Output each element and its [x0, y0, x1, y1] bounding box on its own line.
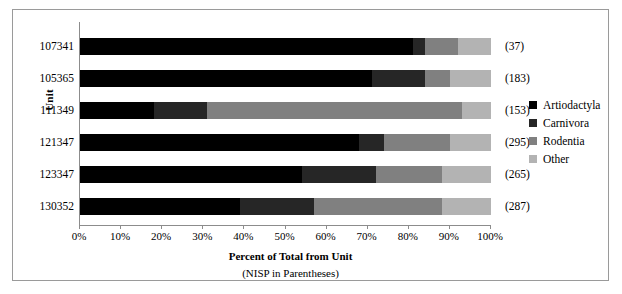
bar-segment-artiodactyla [80, 70, 372, 87]
x-axis-tick-label: 70% [357, 230, 377, 242]
bar-segment-other [442, 166, 491, 183]
legend-swatch-icon [529, 119, 537, 127]
bar-segment-rodentia [384, 134, 450, 151]
y-axis-category-label: 111349 [40, 102, 74, 119]
bar-segment-artiodactyla [80, 102, 154, 119]
bar-segment-carnivora [240, 198, 314, 215]
x-axis-tick-label: 30% [192, 230, 212, 242]
legend-item-carnivora: Carnivora [529, 114, 600, 132]
bar-segment-rodentia [376, 166, 442, 183]
bar-row: 107341(37) [80, 38, 491, 55]
plot-area: 107341(37)105365(183)111349(153)121347(2… [79, 22, 502, 225]
x-axis-tick-label: 50% [274, 230, 294, 242]
x-axis-subtitle: (NISP in Parentheses) [79, 267, 502, 279]
chart-legend: ArtiodactylaCarnivoraRodentiaOther [529, 96, 600, 168]
x-axis-tick-0pct [79, 225, 80, 229]
nisp-annotation-label: (295) [505, 134, 530, 151]
chart-frame: Unit 107341(37)105365(183)111349(153)121… [12, 9, 609, 281]
bar-segment-carnivora [372, 70, 425, 87]
bar-row: 123347(265) [80, 166, 491, 183]
x-axis-tick-80pct [408, 225, 409, 229]
legend-label: Artiodactyla [543, 99, 600, 111]
bar-segment-rodentia [314, 198, 441, 215]
nisp-annotation-label: (153) [505, 102, 530, 119]
bar-segment-other [462, 102, 491, 119]
legend-swatch-icon [529, 155, 537, 163]
x-axis-tick-10pct [120, 225, 121, 229]
x-axis-tick-label: 60% [316, 230, 336, 242]
bar-segment-artiodactyla [80, 38, 413, 55]
y-axis-category-label: 105365 [40, 70, 75, 87]
legend-item-artiodactyla: Artiodactyla [529, 96, 600, 114]
bar-segment-carnivora [154, 102, 207, 119]
legend-label: Rodentia [543, 135, 585, 147]
bar-row: 105365(183) [80, 70, 491, 87]
legend-label: Carnivora [543, 117, 589, 129]
legend-item-other: Other [529, 150, 600, 168]
x-axis-tick-60pct [326, 225, 327, 229]
x-axis-tick-label: 100% [477, 230, 503, 242]
x-axis-tick-label: 0% [72, 230, 87, 242]
x-axis-tick-90pct [449, 225, 450, 229]
bar-row: 111349(153) [80, 102, 491, 119]
x-axis-tick-50pct [285, 225, 286, 229]
x-axis-tick-70pct [367, 225, 368, 229]
nisp-annotation-label: (265) [505, 166, 530, 183]
bar-segment-artiodactyla [80, 166, 302, 183]
nisp-annotation-label: (37) [505, 38, 524, 55]
y-axis-category-label: 107341 [40, 38, 75, 55]
bar-segment-rodentia [207, 102, 462, 119]
x-axis-tick-label: 90% [439, 230, 459, 242]
y-axis-category-label: 123347 [40, 166, 75, 183]
bar-segment-carnivora [359, 134, 384, 151]
bar-segment-other [458, 38, 491, 55]
x-axis-tick-label: 80% [398, 230, 418, 242]
x-axis-tick-20pct [161, 225, 162, 229]
x-axis-tick-label: 20% [151, 230, 171, 242]
legend-item-rodentia: Rodentia [529, 132, 600, 150]
x-axis-title: Percent of Total from Unit [79, 250, 502, 262]
legend-swatch-icon [529, 101, 537, 109]
bar-segment-artiodactyla [80, 134, 359, 151]
nisp-annotation-label: (183) [505, 70, 530, 87]
bar-segment-other [450, 134, 491, 151]
x-axis-tick-label: 40% [233, 230, 253, 242]
bar-segment-carnivora [413, 38, 425, 55]
bar-segment-other [450, 70, 491, 87]
x-axis-tick-label: 10% [110, 230, 130, 242]
bar-row: 121347(295) [80, 134, 491, 151]
y-axis-category-label: 130352 [40, 198, 75, 215]
nisp-annotation-label: (287) [505, 198, 530, 215]
bar-segment-carnivora [302, 166, 376, 183]
y-axis-category-label: 121347 [40, 134, 75, 151]
bar-row: 130352(287) [80, 198, 491, 215]
bar-segment-artiodactyla [80, 198, 240, 215]
bar-segment-other [442, 198, 491, 215]
legend-swatch-icon [529, 137, 537, 145]
legend-label: Other [543, 153, 569, 165]
bar-segment-rodentia [425, 38, 458, 55]
x-axis-tick-30pct [202, 225, 203, 229]
x-axis-tick-40pct [243, 225, 244, 229]
x-axis-tick-100pct [490, 225, 491, 229]
bar-segment-rodentia [425, 70, 450, 87]
